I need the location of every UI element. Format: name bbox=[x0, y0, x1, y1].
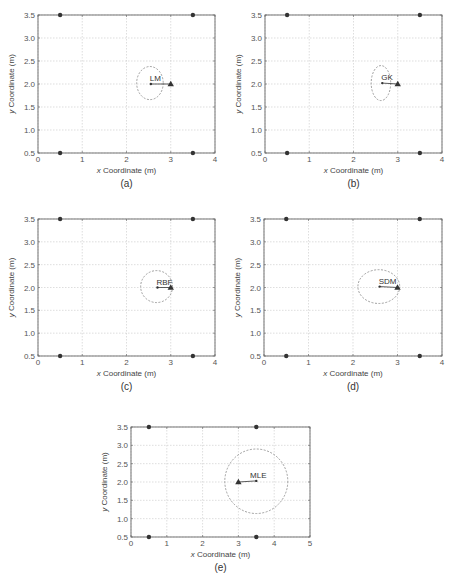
estimate-marker-icon bbox=[255, 480, 257, 482]
x-tick-label: 2 bbox=[351, 155, 356, 164]
x-tick-label: 4 bbox=[213, 358, 218, 367]
anchor-node-icon bbox=[191, 151, 195, 155]
estimate-marker-icon bbox=[150, 83, 152, 85]
anchor-node-icon bbox=[284, 217, 288, 221]
x-tick-label: 4 bbox=[272, 539, 277, 548]
y-tick-label: 3.0 bbox=[24, 34, 36, 43]
x-tick-label: 3 bbox=[395, 358, 400, 367]
error-line bbox=[382, 83, 397, 84]
y-axis-label: y Coordinate (m) bbox=[234, 54, 243, 115]
y-tick-label: 1.0 bbox=[251, 126, 263, 135]
anchor-node-icon bbox=[191, 217, 195, 221]
y-tick-label: 2.0 bbox=[24, 80, 36, 89]
estimate-marker-icon bbox=[156, 286, 158, 288]
x-tick-label: 0 bbox=[36, 358, 41, 367]
method-label: RBF bbox=[156, 278, 172, 287]
tick-labels: 012340.51.01.52.02.53.03.5 bbox=[24, 215, 218, 367]
x-axis-label: x Coordinate (m) bbox=[323, 166, 384, 175]
grid bbox=[131, 427, 310, 537]
y-tick-label: 1.0 bbox=[24, 126, 36, 135]
anchor-node-icon bbox=[58, 151, 62, 155]
x-tick-label: 3 bbox=[396, 155, 401, 164]
y-axis-label: y Coordinate (m) bbox=[7, 257, 16, 318]
anchor-node-icon bbox=[58, 13, 62, 17]
anchor-node-icon bbox=[191, 354, 195, 358]
error-line bbox=[238, 481, 256, 482]
anchor-node-icon bbox=[147, 425, 151, 429]
y-tick-label: 3.5 bbox=[251, 11, 263, 20]
anchor-node-icon bbox=[284, 354, 288, 358]
y-tick-label: 1.5 bbox=[117, 496, 129, 505]
y-tick-label: 2.5 bbox=[250, 261, 262, 270]
panel-caption: (e) bbox=[214, 562, 226, 573]
y-tick-label: 0.5 bbox=[251, 149, 263, 158]
y-tick-label: 3.0 bbox=[250, 238, 262, 247]
y-tick-label: 2.5 bbox=[251, 57, 263, 66]
anchor-node-icon bbox=[147, 535, 151, 539]
uncertainty-ellipse bbox=[137, 67, 164, 100]
x-tick-label: 2 bbox=[351, 358, 356, 367]
y-tick-label: 3.5 bbox=[117, 423, 129, 432]
y-tick-label: 2.5 bbox=[24, 261, 36, 270]
x-axis-label: x Coordinate (m) bbox=[190, 550, 251, 559]
anchor-node-icon bbox=[418, 217, 422, 221]
plot-frame bbox=[131, 427, 310, 537]
method-label: GK bbox=[381, 73, 393, 82]
y-axis-label: y Coordinate (m) bbox=[233, 257, 242, 318]
method-label: LM bbox=[150, 74, 161, 83]
estimate-marker-icon bbox=[379, 285, 381, 287]
y-tick-label: 2.0 bbox=[24, 284, 36, 293]
true-position-triangle-icon bbox=[168, 81, 174, 86]
y-tick-label: 2.0 bbox=[117, 478, 129, 487]
y-tick-label: 0.5 bbox=[117, 533, 129, 542]
anchor-node-icon bbox=[58, 217, 62, 221]
panel-d: 012340.51.01.52.02.53.03.5x Coordinate (… bbox=[233, 215, 445, 392]
grid bbox=[38, 219, 215, 356]
anchor-node-icon bbox=[254, 535, 258, 539]
x-tick-label: 4 bbox=[440, 155, 445, 164]
tick-labels: 012340.51.01.52.02.53.03.5 bbox=[24, 11, 218, 164]
anchor-node-icon bbox=[285, 13, 289, 17]
x-tick-label: 0 bbox=[129, 539, 134, 548]
x-axis-label: x Coordinate (m) bbox=[322, 369, 383, 378]
anchor-node-icon bbox=[58, 354, 62, 358]
x-tick-label: 0 bbox=[262, 358, 267, 367]
y-tick-label: 2.5 bbox=[24, 57, 36, 66]
anchor-node-icon bbox=[418, 13, 422, 17]
method-label: MLE bbox=[250, 471, 266, 480]
uncertainty-ellipse bbox=[141, 271, 173, 303]
y-tick-label: 2.5 bbox=[117, 460, 129, 469]
y-tick-label: 3.5 bbox=[250, 215, 262, 224]
y-tick-label: 3.0 bbox=[117, 441, 129, 450]
x-tick-label: 4 bbox=[213, 155, 218, 164]
y-tick-label: 0.5 bbox=[24, 149, 36, 158]
anchor-node-icon bbox=[254, 425, 258, 429]
x-tick-label: 1 bbox=[165, 539, 170, 548]
panel-caption: (b) bbox=[347, 178, 359, 189]
x-tick-label: 3 bbox=[169, 155, 174, 164]
x-axis-label: x Coordinate (m) bbox=[96, 369, 157, 378]
figure-canvas: 012340.51.01.52.02.53.03.5x Coordinate (… bbox=[0, 0, 457, 580]
panel-caption: (d) bbox=[347, 381, 359, 392]
grid bbox=[265, 15, 442, 153]
x-tick-label: 3 bbox=[236, 539, 241, 548]
x-tick-label: 2 bbox=[124, 155, 129, 164]
y-tick-label: 1.5 bbox=[250, 306, 262, 315]
x-tick-label: 0 bbox=[263, 155, 268, 164]
x-tick-label: 2 bbox=[200, 539, 205, 548]
y-tick-label: 0.5 bbox=[24, 352, 36, 361]
tick-labels: 012340.51.01.52.02.53.03.5 bbox=[251, 11, 445, 164]
y-tick-label: 1.5 bbox=[24, 103, 36, 112]
tick-labels: 0123450.51.01.52.02.53.03.5 bbox=[117, 423, 313, 548]
panel-caption: (c) bbox=[121, 381, 133, 392]
y-tick-label: 1.5 bbox=[251, 103, 263, 112]
x-tick-label: 4 bbox=[440, 358, 445, 367]
x-tick-label: 1 bbox=[80, 155, 85, 164]
x-axis-label: x Coordinate (m) bbox=[96, 166, 157, 175]
y-tick-label: 1.0 bbox=[24, 329, 36, 338]
y-tick-label: 1.0 bbox=[250, 329, 262, 338]
panel-c: 012340.51.01.52.02.53.03.5x Coordinate (… bbox=[7, 215, 218, 392]
x-tick-label: 2 bbox=[124, 358, 129, 367]
panel-b: 012340.51.01.52.02.53.03.5x Coordinate (… bbox=[234, 11, 445, 189]
x-tick-label: 1 bbox=[80, 358, 85, 367]
